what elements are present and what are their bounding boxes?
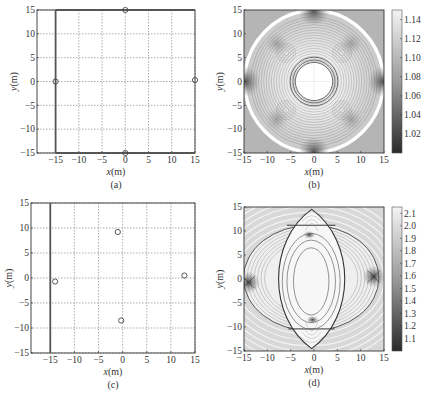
y-tick-label: −15 xyxy=(227,346,242,356)
colorbar-tick-label: 1.4 xyxy=(404,296,416,306)
x-tick-label: 15 xyxy=(379,155,389,165)
panel-d-contour: −15−10−5051015−15−10−5051015x(m)y(m)(d)2… xyxy=(207,195,416,389)
x-tick-label: 0 xyxy=(312,155,317,165)
y-tick-label: −10 xyxy=(227,322,242,332)
y-tick-label: 5 xyxy=(30,53,35,63)
y-axis-label: y(m) xyxy=(214,72,226,92)
colorbar-tick-label: 2.1 xyxy=(404,209,416,219)
y-tick-label: −15 xyxy=(227,148,242,158)
y-axis-label: y(m) xyxy=(3,269,15,289)
y-tick-label: 0 xyxy=(237,274,242,284)
colorbar-tick-label: 1.2 xyxy=(404,321,416,331)
panel-c-scatter: −15−10−5051015−15−10−5051015x(m)y(m)(c) xyxy=(3,198,200,391)
colorbar-tick-label: 1.10 xyxy=(404,53,421,63)
y-tick-label: 5 xyxy=(237,250,242,260)
x-tick-label: −15 xyxy=(43,355,58,365)
colorbar-tick-label: 1.3 xyxy=(404,309,416,319)
x-tick-label: −15 xyxy=(48,155,63,165)
anchor-marker xyxy=(119,318,124,323)
y-tick-label: −15 xyxy=(14,348,29,358)
y-tick-label: 0 xyxy=(30,77,35,87)
panel-b-contour: −15−10−5051015−15−10−5051015x(m)y(m)(b)1… xyxy=(214,0,421,191)
colorbar-tick-label: 1.5 xyxy=(404,284,416,294)
y-tick-label: −15 xyxy=(20,148,35,158)
y-tick-label: 15 xyxy=(20,198,30,208)
y-tick-label: −5 xyxy=(232,101,242,111)
x-tick-label: 5 xyxy=(146,155,151,165)
panel-caption: (b) xyxy=(308,179,320,191)
x-tick-label: −10 xyxy=(67,355,82,365)
x-axis-label: x(m) xyxy=(103,366,123,378)
panel-caption: (a) xyxy=(110,179,121,191)
x-axis-label: x(m) xyxy=(304,364,324,376)
y-tick-label: −5 xyxy=(232,298,242,308)
x-axis-label: x(m) xyxy=(304,166,324,178)
panel-caption: (d) xyxy=(308,377,320,389)
y-tick-label: 10 xyxy=(20,223,30,233)
colorbar-tick-label: 1.06 xyxy=(404,91,421,101)
y-tick-label: 10 xyxy=(26,29,36,39)
y-tick-label: −10 xyxy=(14,323,29,333)
x-tick-label: 15 xyxy=(190,355,200,365)
panel-caption: (c) xyxy=(107,379,118,391)
x-tick-label: 0 xyxy=(312,353,317,363)
y-axis-label: y(m) xyxy=(214,270,226,290)
figure: −15−10−5051015−15−10−5051015x(m)y(m)(a) … xyxy=(0,0,424,401)
y-tick-label: 0 xyxy=(237,77,242,87)
y-tick-label: −10 xyxy=(227,124,242,134)
colorbar xyxy=(392,207,402,351)
colorbar-tick-label: 2.0 xyxy=(404,221,416,231)
colorbar xyxy=(392,10,402,153)
x-tick-label: 10 xyxy=(166,355,176,365)
x-tick-label: 15 xyxy=(379,353,389,363)
y-tick-label: 15 xyxy=(233,5,243,15)
x-tick-label: 5 xyxy=(144,355,149,365)
x-tick-label: −5 xyxy=(93,355,103,365)
x-tick-label: 10 xyxy=(167,155,177,165)
colorbar-tick-label: 1.14 xyxy=(404,15,421,25)
panel-a-scatter: −15−10−5051015−15−10−5051015x(m)y(m)(a) xyxy=(8,5,200,191)
y-tick-label: 10 xyxy=(233,29,243,39)
x-tick-label: 0 xyxy=(123,155,128,165)
y-axis-label: y(m) xyxy=(8,72,20,92)
x-tick-label: 5 xyxy=(335,155,340,165)
colorbar-tick-label: 1.02 xyxy=(404,129,421,139)
x-tick-label: −5 xyxy=(286,353,296,363)
x-tick-label: −10 xyxy=(71,155,86,165)
anchor-marker xyxy=(182,273,187,278)
y-tick-label: −5 xyxy=(19,298,29,308)
x-tick-label: 5 xyxy=(335,353,340,363)
x-tick-label: −5 xyxy=(97,155,107,165)
x-tick-label: 0 xyxy=(120,355,125,365)
y-tick-label: 0 xyxy=(24,273,29,283)
colorbar-tick-label: 1.04 xyxy=(404,110,421,120)
colorbar-tick-label: 1.08 xyxy=(404,72,421,82)
y-tick-label: 10 xyxy=(233,226,243,236)
colorbar-tick-label: 1.9 xyxy=(404,234,416,244)
x-axis-label: x(m) xyxy=(106,166,126,178)
colorbar-tick-label: 1.1 xyxy=(404,334,416,344)
y-tick-label: 5 xyxy=(237,53,242,63)
y-tick-label: 5 xyxy=(24,248,29,258)
colorbar-tick-label: 1.6 xyxy=(404,271,416,281)
y-tick-label: −5 xyxy=(25,101,35,111)
y-tick-label: 15 xyxy=(233,202,243,212)
x-tick-label: 10 xyxy=(356,155,366,165)
y-tick-label: −10 xyxy=(20,124,35,134)
anchor-marker xyxy=(53,279,58,284)
x-tick-label: −10 xyxy=(260,155,275,165)
x-tick-label: 15 xyxy=(190,155,200,165)
colorbar-tick-label: 1.7 xyxy=(404,259,416,269)
x-tick-label: −10 xyxy=(260,353,275,363)
x-tick-label: 10 xyxy=(356,353,366,363)
anchor-marker xyxy=(115,229,120,234)
colorbar-tick-label: 1.8 xyxy=(404,246,416,256)
colorbar-tick-label: 1.12 xyxy=(404,34,421,44)
y-tick-label: 15 xyxy=(26,5,36,15)
x-tick-label: −5 xyxy=(286,155,296,165)
